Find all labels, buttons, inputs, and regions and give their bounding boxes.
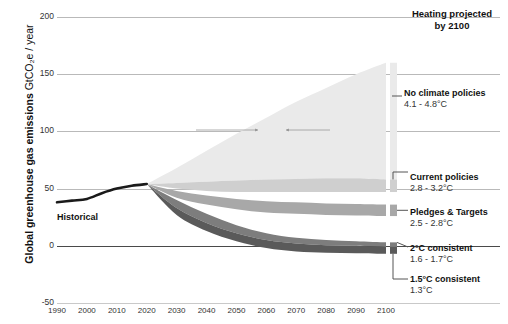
historical-label: Historical [57,212,98,222]
legend-label-name: No climate policies [404,88,486,99]
legend-pledges-targets: Pledges & Targets 2.5 - 2.8°C [410,207,488,230]
heating-projected-title: Heating projected by 2100 [398,8,506,32]
heating-projected-line1: Heating projected [412,8,492,19]
climate-emissions-chart: Global greenhouse gas emissions GtCO₂e /… [0,0,508,324]
band-no-climate-policies [147,63,386,184]
swatch-pledges-targets [390,205,397,216]
connector-1-5c-consistent [393,254,408,279]
swatch-no-climate-policies [390,63,397,180]
legend-current-policies: Current policies 2.8 - 3.2°C [410,172,479,195]
legend-label-temp: 1.6 - 1.7°C [410,254,473,265]
swatch-current-policies [390,179,397,192]
legend-label-temp: 2.8 - 3.2°C [410,183,479,194]
legend-label-name: 2°C consistent [410,243,473,254]
legend-label-name: Pledges & Targets [410,207,488,218]
swatch-1-5c-consistent [390,247,397,254]
heating-projected-line2: by 2100 [435,20,470,31]
legend-label-temp: 4.1 - 4.8°C [404,99,486,110]
legend-no-climate-policies: No climate policies 4.1 - 4.8°C [404,88,486,111]
legend-label-name: 1.5°C consistent [410,274,480,285]
legend-2c-consistent: 2°C consistent 1.6 - 1.7°C [410,243,473,266]
historical-line [57,184,147,202]
legend-1-5c-consistent: 1.5°C consistent 1.3°C [410,274,480,297]
swatch-2c-consistent [390,242,397,247]
legend-label-temp: 2.5 - 2.8°C [410,218,488,229]
legend-label-temp: 1.3°C [410,285,480,296]
connector-2c-consistent [397,242,408,247]
legend-label-name: Current policies [410,172,479,183]
